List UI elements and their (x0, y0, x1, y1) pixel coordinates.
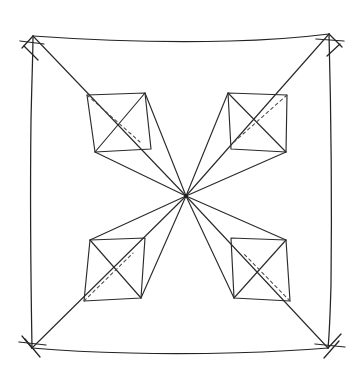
pinwheel-star-sketch: Hand-drawn pinwheel star geometric sketc… (0, 0, 361, 383)
sketch-canvas: Hand-drawn pinwheel star geometric sketc… (0, 0, 361, 383)
center-convergence-point (184, 194, 188, 198)
